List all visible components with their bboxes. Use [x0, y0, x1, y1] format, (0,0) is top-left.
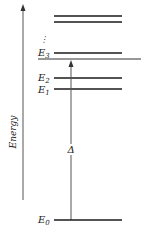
gap-arrowhead-icon	[69, 60, 74, 67]
gap-label: Δ	[66, 144, 74, 155]
gap-arrow	[69, 60, 74, 220]
energy-axis	[21, 4, 26, 200]
level-1-label: E1	[37, 84, 50, 97]
axis-arrowhead-icon	[21, 4, 26, 11]
level-3-label: E3	[37, 47, 50, 60]
energy-level-diagram: Energy ⋮ E3 E2 E1 Δ E0	[0, 0, 147, 232]
ground-level-label: E0	[37, 214, 50, 227]
axis-label: Energy	[8, 115, 18, 150]
ellipsis: ⋮	[40, 35, 48, 44]
